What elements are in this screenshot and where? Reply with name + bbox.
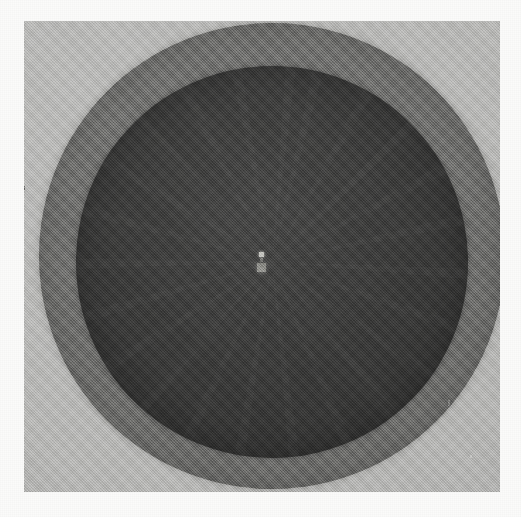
outer-annulus [39,23,500,489]
marker-secondary-dot [257,263,266,272]
dust-speck-left [24,186,25,190]
scratch-right [448,400,450,406]
marker-bridge-dot [260,258,263,262]
inner-core-disc [76,66,468,458]
radial-streak-artifacts [76,66,468,458]
marker-primary-dot [259,252,264,257]
central-marker [253,249,271,275]
scan-field [24,21,500,492]
scanned-image-figure: Scanned grayscale radiograph of a circul… [0,0,521,517]
scratch-corner [470,455,472,458]
